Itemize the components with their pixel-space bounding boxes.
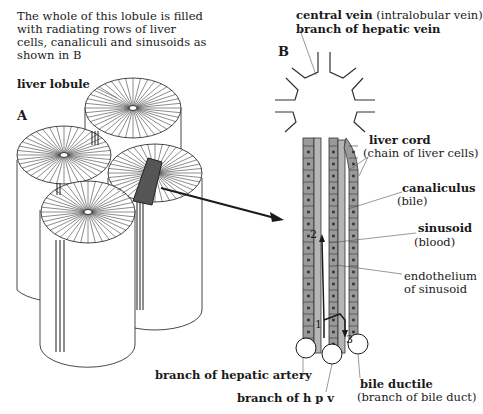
arrow-head-icon: [270, 212, 284, 222]
canaliculus-note: (bile): [397, 195, 428, 208]
liver-cord-note: (chain of liver cells): [363, 147, 479, 160]
central-vein-hole: [84, 210, 92, 215]
panel-label-b: B: [278, 44, 289, 59]
branch-hepatic-artery-label: branch of hepatic artery: [155, 369, 312, 382]
central-vein-label: central vein (intralobular vein): [296, 9, 483, 22]
flow-marker-3: 3: [346, 333, 353, 346]
central-vein-outline: [275, 52, 375, 132]
liver-lobule-label: liver lobule: [17, 78, 90, 91]
bile-ductile-note: (branch of bile duct): [357, 391, 476, 404]
branch-hepatic-vein-label: branch of hepatic vein: [296, 23, 441, 36]
central-vein-hole: [129, 106, 137, 111]
central-vein-hole: [60, 153, 68, 158]
branch-hpv-label: branch of h p v: [237, 392, 334, 405]
flow-marker-1: 1: [315, 318, 322, 331]
panel-label-a: A: [17, 108, 27, 123]
endothelium-note: of sinusoid: [404, 283, 467, 296]
sinusoid-note: (blood): [414, 236, 455, 249]
intro-text: The whole of this lobule is filled with …: [17, 10, 207, 62]
sinusoid-label: sinusoid: [418, 222, 472, 235]
flow-marker-2: 2: [310, 228, 317, 241]
